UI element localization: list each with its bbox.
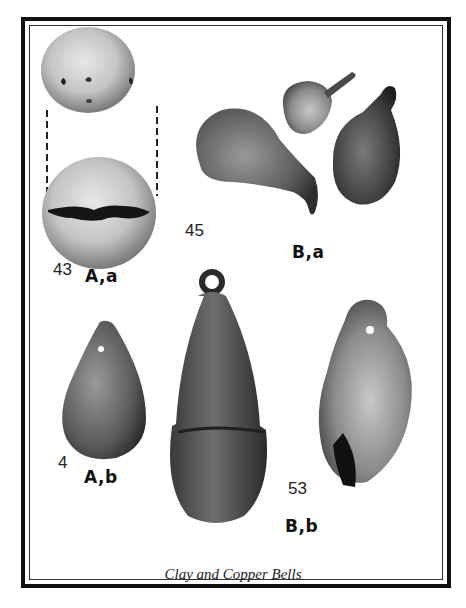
group-label-b-a: B,a <box>292 242 324 262</box>
catalog-number-4: 4 <box>58 453 67 473</box>
catalog-number-43: 43 <box>53 260 72 280</box>
clay-pear-bell <box>62 321 146 459</box>
copper-bell-tall-conical <box>170 272 267 523</box>
group-label-a-a: A,a <box>85 266 118 286</box>
group-label-b-b: B,b <box>285 516 318 536</box>
group-label-a-b: A,b <box>84 467 118 487</box>
copper-bell-rounded-with-loop <box>319 300 412 487</box>
copper-bell-dark-with-loop <box>333 86 413 205</box>
clay-ball-top-view <box>41 27 135 113</box>
copper-bell-small-with-stem <box>283 72 356 134</box>
catalog-number-45: 45 <box>185 221 204 241</box>
clay-ball-side-view <box>42 157 156 269</box>
catalog-number-53: 53 <box>288 479 307 499</box>
figure-caption: Clay and Copper Bells <box>0 566 466 583</box>
artifact-illustrations <box>0 0 466 608</box>
